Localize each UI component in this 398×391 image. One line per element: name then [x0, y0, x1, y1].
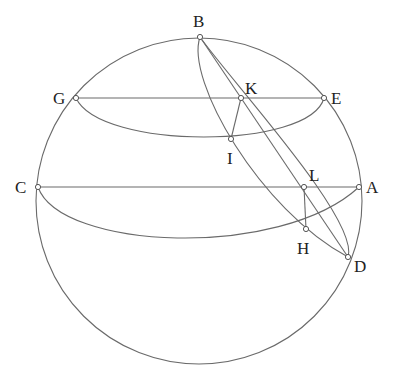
- label-B: B: [193, 12, 204, 31]
- point-I: [228, 136, 233, 141]
- label-H: H: [297, 239, 309, 258]
- point-G: [73, 95, 78, 100]
- point-D: [345, 254, 350, 259]
- point-B: [197, 34, 202, 39]
- label-C: C: [15, 178, 26, 197]
- point-A: [356, 184, 361, 189]
- parallel-circle-GE: [76, 98, 324, 137]
- label-L: L: [309, 166, 319, 185]
- label-E: E: [331, 89, 341, 108]
- label-K: K: [245, 79, 258, 98]
- segment-KI: [231, 98, 241, 139]
- point-L: [301, 184, 306, 189]
- segment-BD: [200, 37, 348, 257]
- point-C: [35, 184, 40, 189]
- point-K: [238, 95, 243, 100]
- great-circle-CA: [38, 187, 359, 238]
- sphere-outline: [36, 38, 362, 364]
- label-D: D: [354, 257, 366, 276]
- label-G: G: [53, 89, 65, 108]
- label-I: I: [227, 149, 233, 168]
- label-A: A: [366, 178, 379, 197]
- sphere-diagram: ABCDEGHIKL: [0, 0, 398, 391]
- point-H: [303, 226, 308, 231]
- point-E: [321, 95, 326, 100]
